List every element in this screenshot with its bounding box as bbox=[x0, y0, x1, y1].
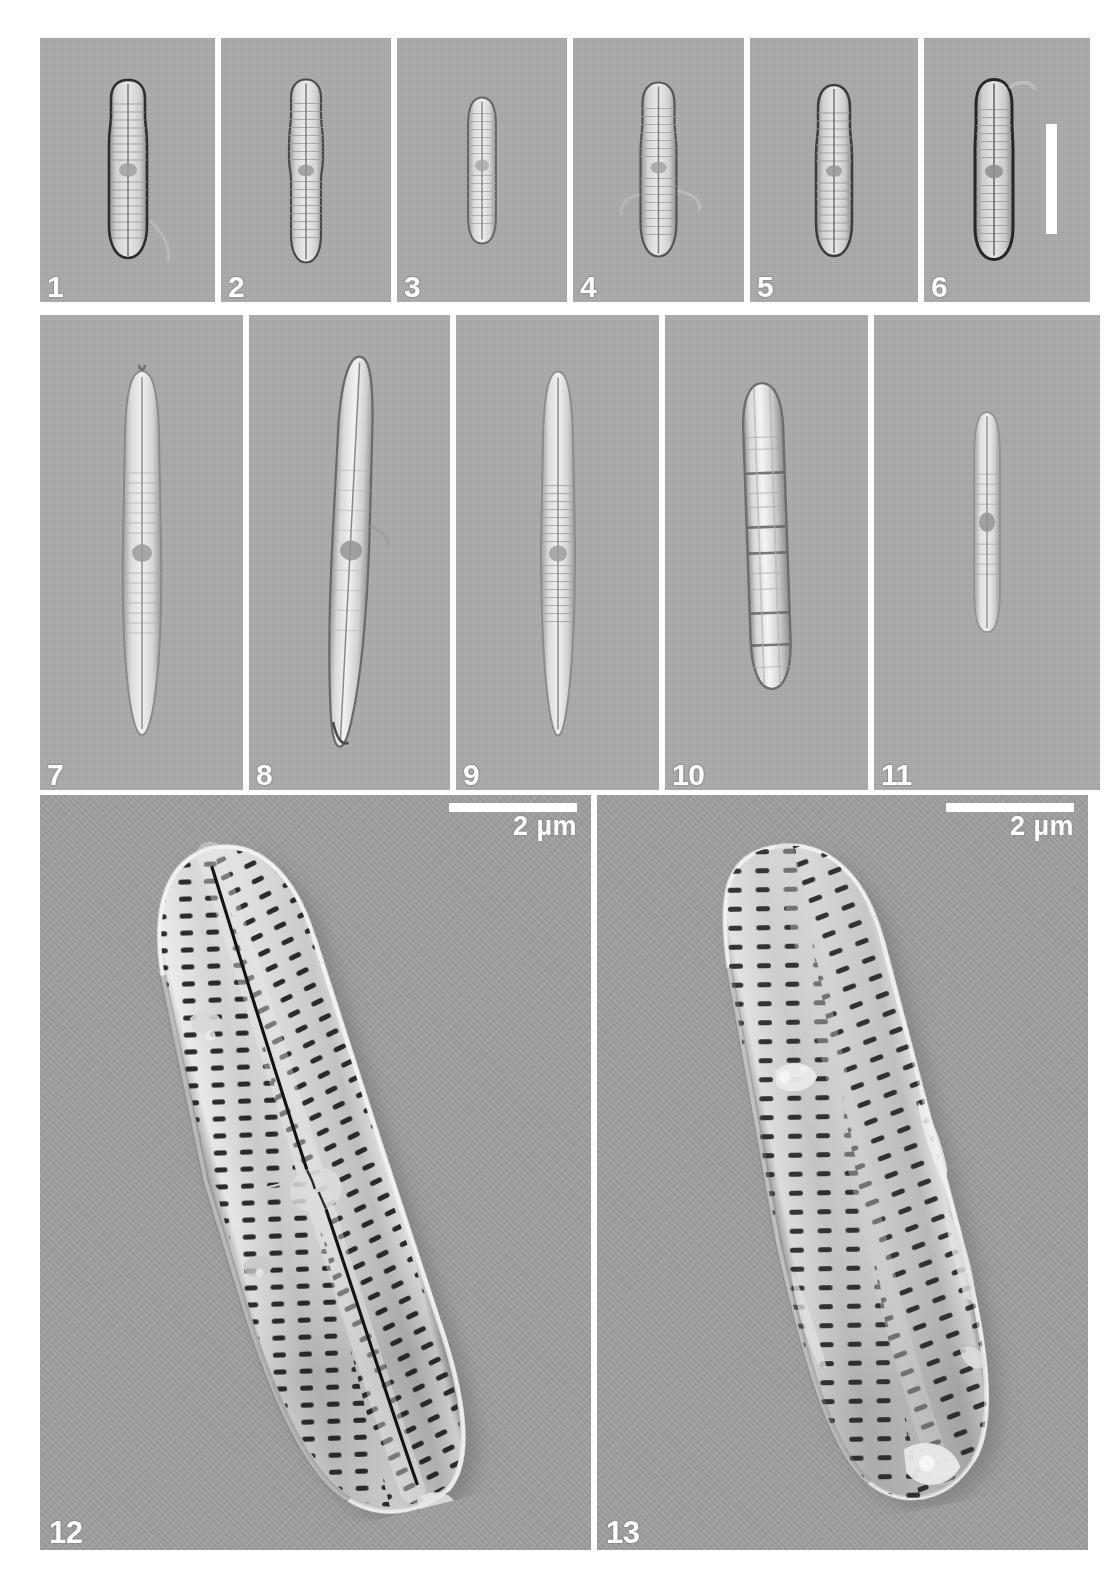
valve-7 bbox=[82, 363, 202, 743]
panel-6[interactable]: 6 bbox=[924, 38, 1090, 302]
panel-13[interactable]: 2 µm 13 bbox=[597, 795, 1088, 1550]
scale-bar-2um-panel-13: 2 µm bbox=[946, 803, 1074, 840]
panel-number: 6 bbox=[931, 272, 947, 302]
valve-10 bbox=[701, 375, 832, 699]
valve-3 bbox=[432, 88, 532, 253]
valve-4 bbox=[601, 73, 716, 268]
panel-number: 12 bbox=[49, 1517, 82, 1548]
panel-3[interactable]: 3 bbox=[397, 38, 567, 302]
panel-7[interactable]: 7 bbox=[40, 315, 243, 790]
valve-8 bbox=[283, 348, 415, 757]
valve-2 bbox=[251, 68, 361, 273]
panel-2[interactable]: 2 bbox=[221, 38, 391, 302]
panel-1[interactable]: 1 bbox=[40, 38, 215, 302]
panel-row-sem: 2 µm 12 bbox=[40, 795, 1088, 1550]
valve-9 bbox=[502, 365, 614, 740]
scale-bar-label: 2 µm bbox=[449, 812, 577, 840]
valve-11 bbox=[942, 404, 1032, 644]
scale-bar-label: 2 µm bbox=[946, 812, 1074, 840]
panel-number: 7 bbox=[47, 760, 63, 790]
panel-number: 11 bbox=[881, 760, 912, 790]
panel-number: 13 bbox=[606, 1517, 639, 1548]
panel-10[interactable]: 10 bbox=[665, 315, 868, 790]
scale-bar-2um-panel-12: 2 µm bbox=[449, 803, 577, 840]
panel-row-lm-bottom: 7 bbox=[40, 315, 1088, 790]
valve-1 bbox=[68, 70, 188, 270]
panel-number: 1 bbox=[47, 272, 63, 302]
panel-row-lm-top: 1 bbox=[40, 38, 1088, 302]
panel-12[interactable]: 2 µm 12 bbox=[40, 795, 591, 1550]
panel-number: 9 bbox=[463, 760, 479, 790]
panel-number: 5 bbox=[757, 272, 773, 302]
valve-6 bbox=[939, 68, 1049, 273]
panel-11[interactable]: 11 bbox=[874, 315, 1100, 790]
panel-5[interactable]: 5 bbox=[750, 38, 918, 302]
figure-page: 1 bbox=[0, 0, 1119, 1586]
panel-8[interactable]: 8 bbox=[249, 315, 450, 790]
panel-number: 8 bbox=[256, 760, 272, 790]
valve-5 bbox=[778, 75, 890, 265]
panel-number: 3 bbox=[404, 272, 420, 302]
valve-12 bbox=[49, 801, 539, 1550]
panel-number: 4 bbox=[580, 272, 596, 302]
panel-number: 10 bbox=[672, 760, 704, 790]
valve-13 bbox=[615, 802, 1071, 1542]
panel-number: 2 bbox=[228, 272, 244, 302]
micrograph-plate: 1 bbox=[40, 38, 1088, 1550]
scale-bar-vertical bbox=[1046, 124, 1057, 234]
panel-4[interactable]: 4 bbox=[573, 38, 744, 302]
panel-9[interactable]: 9 bbox=[456, 315, 659, 790]
